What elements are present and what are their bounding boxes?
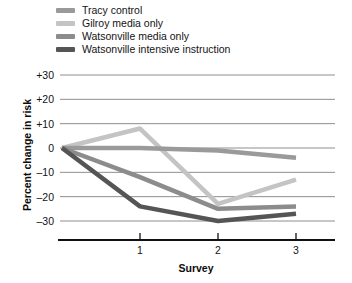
y-axis-tick-label: +20 — [20, 93, 54, 105]
y-axis-tick-label: +10 — [20, 118, 54, 130]
plot-area: Percent change in risk Survey +30+20+100… — [0, 0, 352, 283]
x-axis-tick-label: 1 — [130, 244, 150, 256]
y-axis-tick-label: –10 — [20, 166, 54, 178]
x-axis-title: Survey — [136, 262, 256, 274]
series-line — [62, 148, 296, 209]
y-axis-tick-label: –20 — [20, 191, 54, 203]
y-axis-tick-label: +30 — [20, 69, 54, 81]
y-axis-tick-label: –30 — [20, 215, 54, 227]
x-axis-tick-label: 2 — [208, 244, 228, 256]
x-axis-tick-label: 3 — [286, 244, 306, 256]
series-line — [62, 148, 296, 158]
y-axis-tick-label: 0 — [20, 142, 54, 154]
chart-figure: Tracy control Gilroy media only Watsonvi… — [0, 0, 352, 283]
